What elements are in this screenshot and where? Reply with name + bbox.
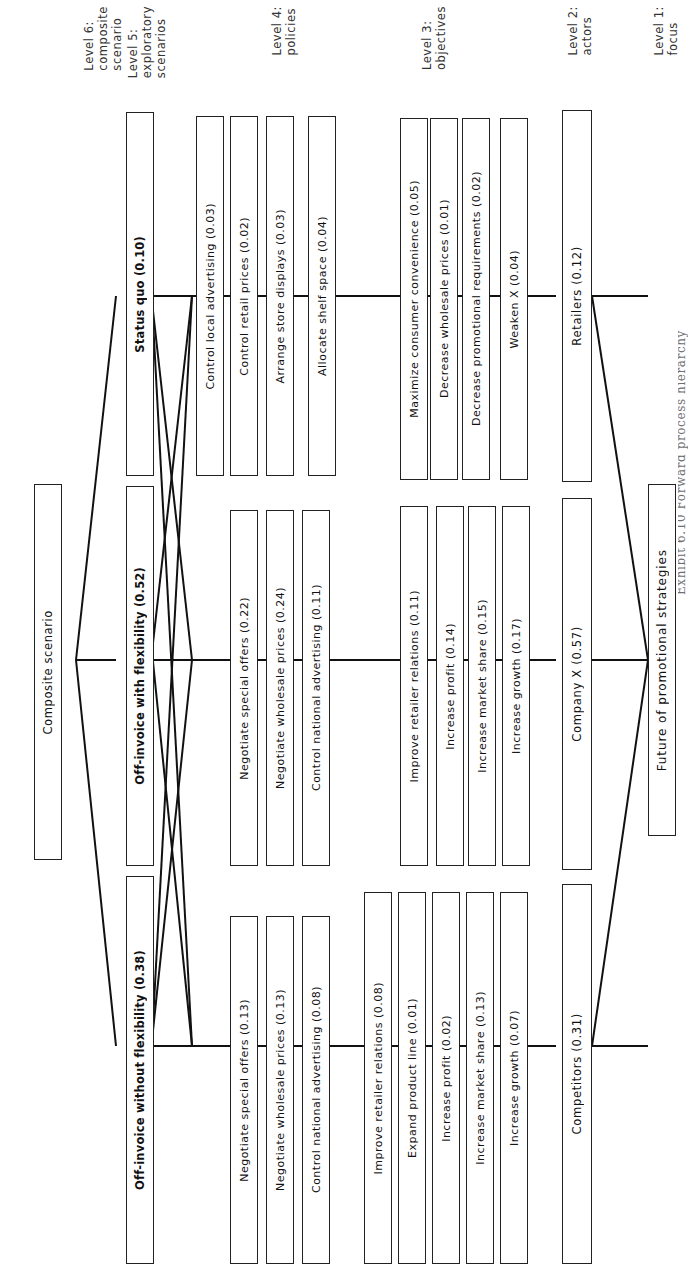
node-scenario-status-quo-label: Status quo (0.10) (133, 236, 147, 353)
node-objective-improve-retailer-relations-competitors[interactable]: Improve retailer relations (0.08) (364, 892, 392, 1264)
link-cross-ret-to-withoutflex (152, 296, 192, 1040)
node-actor-company-x[interactable]: Company X (0.57) (562, 498, 592, 870)
node-policy-control-national-advertising-competitors-label: Control national advertising (0.08) (310, 986, 323, 1193)
node-objective-improve-retailer-relations-competitors-label: Improve retailer relations (0.08) (372, 982, 385, 1174)
link-composite-withoutflex (76, 660, 116, 1046)
link-cross-comp-to-statusquo (152, 302, 192, 1046)
node-composite-scenario-label: Composite scenario (41, 610, 55, 735)
node-policy-control-local-advertising-label: Control local advertising (0.03) (204, 203, 217, 390)
node-policy-negotiate-special-offers-company-x[interactable]: Negotiate special offers (0.22) (230, 510, 258, 866)
link-focus-fan-retailers (592, 296, 648, 660)
node-objective-increase-profit-company-x[interactable]: Increase profit (0.14) (436, 506, 464, 866)
node-policy-control-national-advertising-company-x[interactable]: Control national advertising (0.11) (302, 510, 330, 866)
node-scenario-off-invoice-with-flexibility[interactable]: Off-invoice with flexibility (0.52) (126, 486, 154, 866)
node-objective-expand-product-line[interactable]: Expand product line (0.01) (398, 892, 426, 1264)
node-objective-increase-growth-company-x-label: Increase growth (0.17) (510, 618, 523, 754)
node-policy-negotiate-wholesale-prices-competitors-label: Negotiate wholesale prices (0.13) (274, 989, 287, 1191)
node-actor-retailers-label: Retailers (0.12) (570, 246, 584, 346)
node-policy-control-retail-prices[interactable]: Control retail prices (0.02) (230, 116, 258, 476)
figure-caption-text: Exhibit 6.10 Forward process hierarchy (678, 330, 688, 595)
level-label-2: Level 2: actors (566, 6, 594, 56)
node-objective-increase-growth-competitors[interactable]: Increase growth (0.07) (500, 892, 528, 1264)
node-objective-decrease-promotional-requirements-label: Decrease promotional requirements (0.02) (470, 171, 483, 426)
node-objective-increase-market-share-competitors[interactable]: Increase market share (0.13) (466, 892, 494, 1264)
node-actor-competitors-label: Competitors (0.31) (570, 1013, 584, 1134)
node-scenario-off-invoice-without-flexibility-label: Off-invoice without flexibility (0.38) (133, 950, 147, 1190)
node-objective-decrease-wholesale-prices-label: Decrease wholesale prices (0.01) (438, 199, 451, 398)
level-label-5: Level 5: exploratory scenarios (126, 6, 168, 78)
node-objective-increase-market-share-competitors-label: Increase market share (0.13) (474, 991, 487, 1165)
link-cross-comp-to-withflex (152, 652, 192, 1046)
node-policy-negotiate-special-offers-competitors[interactable]: Negotiate special offers (0.13) (230, 916, 258, 1264)
node-focus-label: Future of promotional strategies (655, 549, 669, 771)
figure-caption: Exhibit 6.10 Forward process hierarchy (678, 0, 696, 1280)
node-objective-maximize-consumer-convenience-label: Maximize consumer convenience (0.05) (408, 180, 421, 418)
link-composite-statusquo (76, 296, 116, 660)
node-objective-increase-growth-competitors-label: Increase growth (0.07) (508, 1010, 521, 1146)
node-policy-negotiate-wholesale-prices-company-x-label: Negotiate wholesale prices (0.24) (274, 587, 287, 789)
node-policy-negotiate-wholesale-prices-competitors[interactable]: Negotiate wholesale prices (0.13) (266, 916, 294, 1264)
node-objective-increase-market-share-company-x[interactable]: Increase market share (0.15) (468, 506, 496, 866)
node-policy-negotiate-special-offers-company-x-label: Negotiate special offers (0.22) (238, 597, 251, 780)
node-actor-company-x-label: Company X (0.57) (570, 626, 584, 742)
node-scenario-off-invoice-with-flexibility-label: Off-invoice with flexibility (0.52) (133, 567, 147, 785)
node-policy-control-national-advertising-company-x-label: Control national advertising (0.11) (310, 584, 323, 791)
node-scenario-off-invoice-without-flexibility[interactable]: Off-invoice without flexibility (0.38) (126, 876, 154, 1264)
node-policy-allocate-shelf-space-label: Allocate shelf space (0.04) (316, 216, 329, 376)
node-objective-increase-market-share-company-x-label: Increase market share (0.15) (476, 599, 489, 773)
node-objective-weaken-x[interactable]: Weaken X (0.04) (500, 118, 528, 480)
node-actor-competitors[interactable]: Competitors (0.31) (562, 884, 592, 1264)
node-composite-scenario[interactable]: Composite scenario (34, 484, 62, 860)
node-focus[interactable]: Future of promotional strategies (648, 484, 676, 836)
node-policy-arrange-store-displays-label: Arrange store displays (0.03) (274, 209, 287, 384)
link-cross-ret-to-withflex (152, 296, 192, 652)
node-policy-negotiate-special-offers-competitors-label: Negotiate special offers (0.13) (238, 999, 251, 1182)
link-focus-fan-competitors (592, 660, 648, 1046)
node-objective-improve-retailer-relations-company-x[interactable]: Improve retailer relations (0.11) (400, 506, 428, 866)
node-policy-control-retail-prices-label: Control retail prices (0.02) (238, 217, 251, 376)
level-label-1: Level 1: focus (652, 6, 680, 56)
node-scenario-status-quo[interactable]: Status quo (0.10) (126, 112, 154, 476)
node-actor-retailers[interactable]: Retailers (0.12) (562, 110, 592, 482)
level-label-6: Level 6: composite scenario (82, 6, 124, 71)
node-objective-increase-profit-company-x-label: Increase profit (0.14) (444, 623, 457, 750)
node-objective-increase-profit-competitors[interactable]: Increase profit (0.02) (432, 892, 460, 1264)
node-objective-increase-profit-competitors-label: Increase profit (0.02) (440, 1015, 453, 1142)
link-cross-cx-to-withoutflex (152, 660, 192, 1040)
node-policy-allocate-shelf-space[interactable]: Allocate shelf space (0.04) (308, 116, 336, 476)
node-objective-improve-retailer-relations-company-x-label: Improve retailer relations (0.11) (408, 590, 421, 782)
node-objective-expand-product-line-label: Expand product line (0.01) (406, 998, 419, 1158)
node-objective-weaken-x-label: Weaken X (0.04) (508, 250, 521, 349)
node-objective-decrease-promotional-requirements[interactable]: Decrease promotional requirements (0.02) (462, 118, 490, 480)
node-policy-negotiate-wholesale-prices-company-x[interactable]: Negotiate wholesale prices (0.24) (266, 510, 294, 866)
node-objective-decrease-wholesale-prices[interactable]: Decrease wholesale prices (0.01) (430, 118, 458, 480)
link-cross-cx-to-statusquo (152, 302, 192, 660)
node-objective-increase-growth-company-x[interactable]: Increase growth (0.17) (502, 506, 530, 866)
node-policy-arrange-store-displays[interactable]: Arrange store displays (0.03) (266, 116, 294, 476)
level-label-3: Level 3: objectives (420, 6, 448, 70)
node-policy-control-national-advertising-competitors[interactable]: Control national advertising (0.08) (302, 916, 330, 1264)
node-policy-control-local-advertising[interactable]: Control local advertising (0.03) (196, 116, 224, 476)
node-objective-maximize-consumer-convenience[interactable]: Maximize consumer convenience (0.05) (400, 118, 428, 480)
figure-canvas: Level 1: focus Level 2: actors Level 3: … (0, 0, 696, 1280)
level-label-4: Level 4: policies (270, 6, 298, 56)
